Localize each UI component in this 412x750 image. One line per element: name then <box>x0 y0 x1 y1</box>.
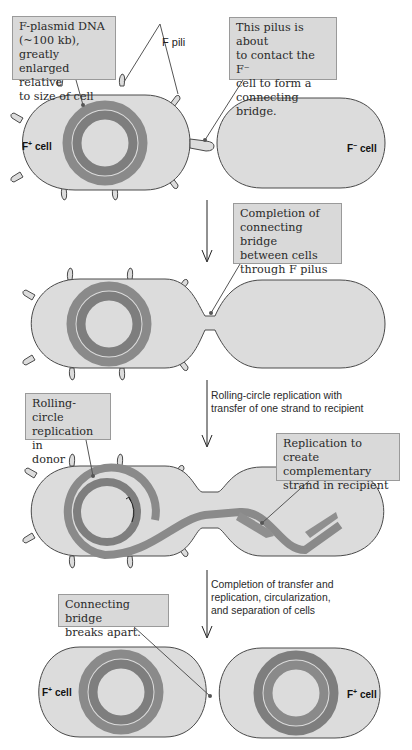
right-cell-label: F+ cell <box>347 688 377 700</box>
callout-complementary-strand: Replication to create complementary stra… <box>276 433 400 481</box>
callout-rolling-circle: Rolling-circle replication in donor <box>25 393 111 440</box>
callout-f-plasmid: F-plasmid DNA (~100 kb), greatly enlarge… <box>12 16 116 80</box>
step-rolling-circle: Rolling-circle replication with transfer… <box>211 389 363 415</box>
step-arrow-1 <box>202 200 212 262</box>
stage4 <box>39 626 380 738</box>
extending-pilus <box>190 139 214 151</box>
donor-cell-label: F+ cell <box>22 140 52 152</box>
conjugation-diagram <box>0 0 412 750</box>
recipient-cell-label: F− cell <box>347 142 377 154</box>
stage2 <box>23 264 385 380</box>
left-cell-label: F+ cell <box>42 686 72 698</box>
callout-bridge-completion: Completion of connecting bridge between … <box>233 203 342 264</box>
callout-pilus-contact: This pilus is about to contact the F⁻ ce… <box>229 17 337 80</box>
f-pili-label: F pili <box>162 36 185 48</box>
step-completion: Completion of transfer and replication, … <box>211 578 333 617</box>
callout-bridge-breaks: Connecting bridge breaks apart. <box>58 594 169 627</box>
